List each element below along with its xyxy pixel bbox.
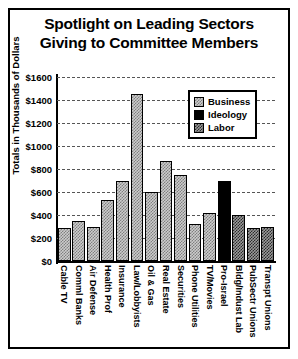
chart-container: Spotlight on Leading Sectors Giving to C… bbox=[0, 0, 298, 359]
bar-slot bbox=[260, 77, 275, 261]
y-tick-label: $600 bbox=[4, 187, 52, 198]
x-label-slot: Securities bbox=[173, 263, 188, 355]
x-axis-tick-labels: Cable TVComml BanksAir DefenseHealth Pro… bbox=[57, 263, 275, 355]
x-tick-label: Bldg/Indust Lab bbox=[234, 265, 244, 333]
bar bbox=[160, 161, 173, 261]
x-tick-label: Comml Banks bbox=[74, 265, 84, 325]
y-tick-label: $400 bbox=[4, 210, 52, 221]
chart-title-line-1: Spotlight on Leading Sectors bbox=[12, 14, 286, 33]
legend-label: Ideology bbox=[208, 109, 247, 120]
bar bbox=[58, 228, 71, 261]
bar bbox=[116, 181, 129, 262]
x-label-slot: Bldg/Indust Lab bbox=[231, 263, 246, 355]
bar bbox=[232, 215, 245, 261]
bar bbox=[189, 224, 202, 261]
bar bbox=[131, 94, 144, 261]
x-tick-label: Oil & Gas bbox=[146, 265, 156, 306]
x-label-slot: Cable TV bbox=[57, 263, 72, 355]
bar-slot bbox=[115, 77, 130, 261]
x-tick-label: Cable TV bbox=[59, 265, 69, 304]
legend-item: Labor bbox=[194, 121, 250, 134]
bar bbox=[261, 227, 274, 262]
bar-slot bbox=[57, 77, 72, 261]
bar bbox=[72, 221, 85, 261]
legend-swatch-icon bbox=[194, 110, 204, 120]
x-tick-label: TV/Movies bbox=[205, 265, 215, 310]
x-label-slot: PubSectr Unions bbox=[246, 263, 261, 355]
x-tick-label: Transpt Unions bbox=[263, 265, 273, 331]
x-tick-label: Real Estate bbox=[161, 265, 171, 314]
y-tick-label: $1200 bbox=[4, 118, 52, 129]
chart-title: Spotlight on Leading Sectors Giving to C… bbox=[12, 14, 286, 52]
y-tick-label: $0 bbox=[4, 256, 52, 267]
legend-label: Business bbox=[208, 96, 250, 107]
x-label-slot: Transpt Unions bbox=[260, 263, 275, 355]
legend-item: Business bbox=[194, 95, 250, 108]
bar-slot bbox=[159, 77, 174, 261]
bar-slot bbox=[144, 77, 159, 261]
x-label-slot: TV/Movies bbox=[202, 263, 217, 355]
x-label-slot: Insurance bbox=[115, 263, 130, 355]
legend-item: Ideology bbox=[194, 108, 250, 121]
bar-slot bbox=[130, 77, 145, 261]
x-label-slot: Real Estate bbox=[159, 263, 174, 355]
x-label-slot: Health Prof bbox=[101, 263, 116, 355]
x-tick-label: Insurance bbox=[117, 265, 127, 308]
bar bbox=[203, 213, 216, 261]
x-label-slot: Oil & Gas bbox=[144, 263, 159, 355]
legend-swatch-icon bbox=[194, 123, 204, 133]
bar-slot bbox=[86, 77, 101, 261]
chart-title-line-2: Giving to Committee Members bbox=[12, 33, 286, 52]
bar bbox=[174, 175, 187, 261]
x-tick-label: Air Defense bbox=[88, 265, 98, 315]
y-axis-tick-labels: $1600$1400$1200$1000$800$600$400$200$0 bbox=[0, 77, 52, 261]
bar bbox=[101, 200, 114, 261]
x-label-slot: Law/Lobbyists bbox=[130, 263, 145, 355]
bar bbox=[145, 192, 158, 261]
y-tick-label: $1600 bbox=[4, 72, 52, 83]
x-tick-label: Phone Utilities bbox=[190, 265, 200, 328]
x-label-slot: Pro-Israel bbox=[217, 263, 232, 355]
x-tick-label: PubSectr Unions bbox=[248, 265, 258, 338]
x-tick-label: Pro-Israel bbox=[219, 265, 229, 307]
y-tick-label: $200 bbox=[4, 233, 52, 244]
bar-slot bbox=[72, 77, 87, 261]
legend-label: Labor bbox=[208, 122, 234, 133]
bar bbox=[218, 181, 231, 262]
legend-swatch-icon bbox=[194, 97, 204, 107]
x-label-slot: Air Defense bbox=[86, 263, 101, 355]
bar-slot bbox=[173, 77, 188, 261]
y-tick-label: $800 bbox=[4, 164, 52, 175]
x-tick-label: Law/Lobbyists bbox=[132, 265, 142, 328]
bar bbox=[87, 227, 100, 262]
bar bbox=[247, 228, 260, 261]
y-tick-label: $1400 bbox=[4, 95, 52, 106]
chart-legend: BusinessIdeologyLabor bbox=[188, 90, 257, 139]
bar-slot bbox=[101, 77, 116, 261]
y-tick-label: $1000 bbox=[4, 141, 52, 152]
x-tick-label: Securities bbox=[176, 265, 186, 308]
x-label-slot: Comml Banks bbox=[72, 263, 87, 355]
x-label-slot: Phone Utilities bbox=[188, 263, 203, 355]
x-tick-label: Health Prof bbox=[103, 265, 113, 313]
